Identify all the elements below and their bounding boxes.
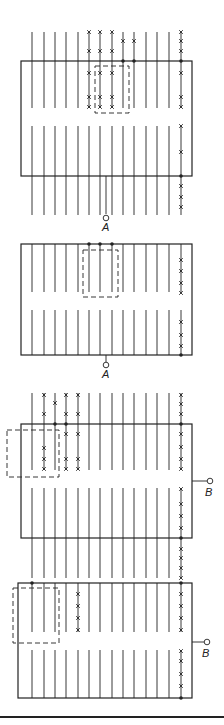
panel-2: A [21, 242, 192, 380]
terminal-circle-icon [103, 362, 109, 368]
junction-dot [30, 581, 34, 585]
dashed-selection-box [13, 588, 59, 643]
panel-4: B [13, 581, 210, 700]
junction-dot [179, 581, 183, 585]
frame-rect [21, 244, 192, 355]
junction-dot [110, 242, 114, 246]
terminal-label-b: B [202, 647, 209, 659]
panel-3: B [7, 393, 213, 580]
panels-group: AABB [7, 30, 213, 700]
strip-line-diagram: AABB [0, 0, 224, 725]
terminal-label-a: A [101, 221, 109, 233]
dashed-selection-box [83, 250, 118, 297]
terminal-circle-icon [207, 478, 213, 484]
terminal-circle-icon [204, 639, 210, 645]
junction-dot [121, 59, 125, 63]
junction-dot [98, 242, 102, 246]
junction-dot [179, 422, 183, 426]
terminal-circle-icon [103, 215, 109, 221]
junction-dot [132, 59, 136, 63]
junction-dot [179, 696, 183, 700]
junction-dot [64, 422, 68, 426]
terminal-label-a: A [101, 368, 109, 380]
terminal-label-b: B [205, 486, 212, 498]
frame-rect [21, 424, 192, 538]
dashed-selection-box [7, 430, 59, 477]
junction-dot [179, 59, 183, 63]
junction-dot [53, 422, 57, 426]
junction-dot [87, 242, 91, 246]
junction-dot [179, 174, 183, 178]
frame-rect [21, 61, 192, 176]
junction-dot [179, 353, 183, 357]
junction-dot [179, 536, 183, 540]
panel-1: A [21, 30, 192, 233]
